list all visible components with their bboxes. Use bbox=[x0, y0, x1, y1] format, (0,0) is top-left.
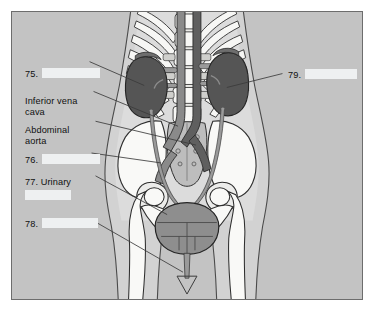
urinary-bladder bbox=[155, 203, 219, 255]
kidney-left-viewer-right bbox=[207, 53, 249, 116]
label-75[interactable]: 75. bbox=[25, 68, 100, 80]
label-79[interactable]: 79. bbox=[288, 69, 357, 81]
label-inferior-vena-cava: Inferior vena cava bbox=[25, 96, 77, 119]
label-78[interactable]: 78. bbox=[25, 218, 98, 230]
label-79-number: 79. bbox=[288, 70, 301, 80]
diagram-frame: 75. Inferior vena cava Abdominal aorta 7… bbox=[11, 11, 363, 300]
label-ivc-line2: cava bbox=[25, 107, 45, 117]
kidney-right-viewer-left bbox=[125, 57, 167, 118]
label-aorta-line1: Abdominal bbox=[25, 125, 69, 135]
label-ivc-line1: Inferior vena bbox=[25, 96, 77, 106]
label-78-blank[interactable] bbox=[42, 218, 98, 228]
label-abdominal-aorta: Abdominal aorta bbox=[25, 125, 69, 148]
label-79-blank[interactable] bbox=[305, 69, 357, 79]
label-76[interactable]: 76. bbox=[25, 154, 100, 166]
label-75-number: 75. bbox=[25, 69, 38, 79]
label-76-number: 76. bbox=[25, 155, 38, 165]
label-77[interactable]: 77. Urinary bbox=[25, 177, 71, 200]
label-78-number: 78. bbox=[25, 219, 38, 229]
label-75-blank[interactable] bbox=[42, 68, 100, 78]
label-aorta-line2: aorta bbox=[25, 136, 46, 146]
label-77-blank[interactable] bbox=[25, 190, 71, 200]
label-76-blank[interactable] bbox=[42, 154, 100, 164]
label-77-number: 77. Urinary bbox=[25, 177, 71, 187]
